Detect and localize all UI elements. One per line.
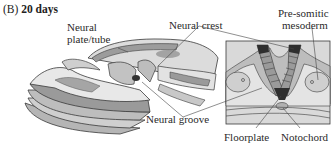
label-neural-crest: Neural crest: [169, 20, 222, 31]
label-notochord: Notochord: [281, 132, 328, 143]
label-floorplate: Floorplate: [224, 132, 269, 143]
label-neural-plate-line2: plate/tube: [67, 34, 110, 45]
label-presomitic-line1: Pre-somitic: [278, 8, 329, 19]
label-presomitic-line2: mesoderm: [282, 20, 328, 31]
label-neural-plate-line1: Neural: [67, 22, 97, 33]
cross-section-inset: [226, 41, 330, 124]
label-neural-groove: Neural groove: [146, 114, 209, 125]
